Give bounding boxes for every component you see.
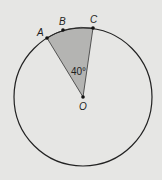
point-B	[61, 28, 65, 32]
shaded-sector	[47, 27, 93, 97]
label-B: B	[59, 16, 66, 27]
circle-diagram: A B C O 40°	[0, 0, 162, 180]
angle-label: 40°	[71, 66, 86, 77]
label-O: O	[79, 101, 87, 112]
diagram-svg: A B C O 40°	[0, 0, 162, 180]
label-C: C	[90, 14, 98, 25]
point-A	[45, 36, 49, 40]
point-O	[81, 95, 85, 99]
point-C	[91, 26, 95, 30]
label-A: A	[36, 27, 44, 38]
